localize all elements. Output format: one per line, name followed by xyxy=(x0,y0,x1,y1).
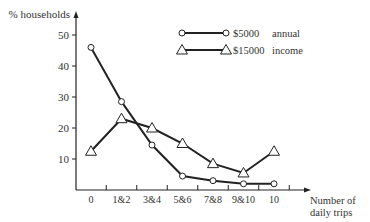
series-line xyxy=(91,47,274,183)
line-chart: % households102030405001&23&45&67&89&101… xyxy=(0,0,370,222)
chart-svg: % households102030405001&23&45&67&89&101… xyxy=(0,0,370,222)
circle-marker-icon xyxy=(223,30,229,36)
series-circle xyxy=(88,44,277,186)
legend-label: $5000 xyxy=(233,28,259,39)
series-triangle xyxy=(86,113,280,177)
x-axis-label: Number of xyxy=(310,195,356,206)
circle-marker-icon xyxy=(149,142,155,148)
y-tick-label: 20 xyxy=(58,122,70,134)
legend-item-circle: $5000annual xyxy=(179,28,300,39)
circle-marker-icon xyxy=(88,44,94,50)
x-tick-label: 1&2 xyxy=(113,194,131,205)
x-tick-label: 0 xyxy=(89,194,94,205)
x-tick-label: 5&6 xyxy=(174,194,192,205)
circle-marker-icon xyxy=(119,99,125,105)
y-tick-label: 10 xyxy=(58,153,70,165)
x-tick-label: 7&8 xyxy=(204,194,222,205)
y-tick-label: 50 xyxy=(58,29,70,41)
series-layer xyxy=(86,44,280,186)
x-tick-label: 10 xyxy=(269,194,279,205)
y-axis-label: % households xyxy=(9,8,70,20)
circle-marker-icon xyxy=(241,181,247,187)
triangle-marker-icon xyxy=(116,113,127,123)
circle-marker-icon xyxy=(179,30,185,36)
circle-marker-icon xyxy=(180,173,186,179)
circle-marker-icon xyxy=(210,178,216,184)
x-axis-arrow-icon xyxy=(304,188,311,193)
x-axis-label: daily trips xyxy=(310,207,352,218)
y-tick-label: 30 xyxy=(58,91,70,103)
legend: $5000annual$15000income xyxy=(177,28,304,56)
legend-suffix: annual xyxy=(272,28,300,39)
triangle-marker-icon xyxy=(177,138,188,148)
x-tick-label: 3&4 xyxy=(143,194,161,205)
legend-suffix: income xyxy=(272,45,303,56)
y-tick-label: 40 xyxy=(58,60,70,72)
legend-label: $15000 xyxy=(233,45,265,56)
x-tick-label: 9&10 xyxy=(232,194,255,205)
circle-marker-icon xyxy=(271,181,277,187)
axes: % households102030405001&23&45&67&89&101… xyxy=(9,8,357,218)
y-axis-arrow-icon xyxy=(74,11,79,18)
triangle-marker-icon xyxy=(208,158,219,168)
legend-item-triangle: $15000income xyxy=(177,45,304,57)
triangle-marker-icon xyxy=(269,146,280,156)
